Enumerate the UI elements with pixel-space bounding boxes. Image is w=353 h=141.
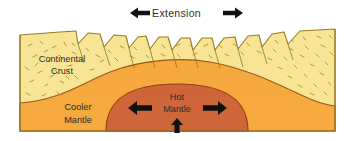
continental-crust-label-line2: Crust (51, 66, 73, 76)
continental-crust-label-line1: Continental (39, 54, 85, 64)
cooler-mantle-label-line2: Mantle (64, 115, 92, 125)
arrow-left-icon (130, 8, 150, 19)
cooler-mantle-label-line1: Cooler (64, 102, 91, 112)
arrow-right-icon (223, 8, 243, 19)
extension-caption: Extension (130, 7, 243, 19)
hot-mantle-label-line2: Mantle (163, 104, 191, 114)
hot-mantle-label-line1: Hot (170, 92, 185, 102)
extension-label: Extension (152, 7, 201, 19)
diagram-canvas: Extension Continental Crust Cooler Mantl… (0, 0, 353, 141)
rifting-cross-section-figure: Extension Continental Crust Cooler Mantl… (0, 0, 353, 141)
